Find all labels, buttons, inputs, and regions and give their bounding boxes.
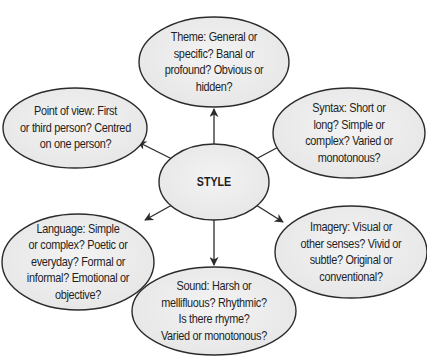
node-theme-label: Theme: General or specific? Banal or pro… <box>152 24 275 100</box>
node-sound-line: Varied or monotonous? <box>161 328 267 345</box>
node-syntax-line: long? Simple or <box>305 117 393 134</box>
node-imagery-line: conventional? <box>301 269 402 286</box>
node-imagery-line: other senses? Vivid or <box>301 236 402 253</box>
node-sound-label: Sound: Harsh or mellifluous? Rhythmic? I… <box>147 274 281 348</box>
node-language-line: informal? Emotional or <box>27 270 129 287</box>
node-imagery-line: Imagery: Visual or <box>301 219 402 236</box>
node-theme-line: specific? Banal or <box>165 46 264 63</box>
node-sound-line: Sound: Harsh or <box>161 278 267 295</box>
edge-style-point-of-view <box>138 142 172 159</box>
node-theme-line: hidden? <box>165 79 264 96</box>
node-language-line: or complex? Poetic or <box>27 237 129 254</box>
node-syntax-line: Syntax: Short or <box>305 100 393 117</box>
node-language-line: Language: Simple <box>27 221 129 238</box>
node-theme-line: Theme: General or <box>165 29 264 46</box>
node-theme-line: profound? Obvious or <box>165 62 264 79</box>
node-point-of-view-line: or third person? Centred <box>20 120 131 137</box>
node-point-of-view-line: on one person? <box>20 136 131 153</box>
node-point-of-view-label: Point of view: First or third person? Ce… <box>12 100 140 156</box>
node-sound-line: mellifluous? Rhythmic? <box>161 295 267 312</box>
node-language-label: Language: Simple or complex? Poetic or e… <box>13 220 143 304</box>
node-imagery-label: Imagery: Visual or other senses? Vivid o… <box>289 215 414 289</box>
node-point-of-view-line: Point of view: First <box>20 103 131 120</box>
node-syntax-line: complex? Varied or <box>305 133 393 150</box>
node-style-label: STYLE <box>173 170 255 194</box>
node-syntax-label: Syntax: Short or long? Simple or complex… <box>290 96 408 170</box>
node-imagery-line: subtle? Original or <box>301 252 402 269</box>
node-syntax-line: monotonous? <box>305 150 393 167</box>
edge-style-imagery <box>256 205 283 222</box>
edge-style-language <box>145 205 172 220</box>
center-label-text: STYLE <box>197 174 231 191</box>
node-language-line: everyday? Formal or <box>27 254 129 271</box>
node-sound-line: Is there rhyme? <box>161 311 267 328</box>
node-language-line: objective? <box>27 287 129 304</box>
